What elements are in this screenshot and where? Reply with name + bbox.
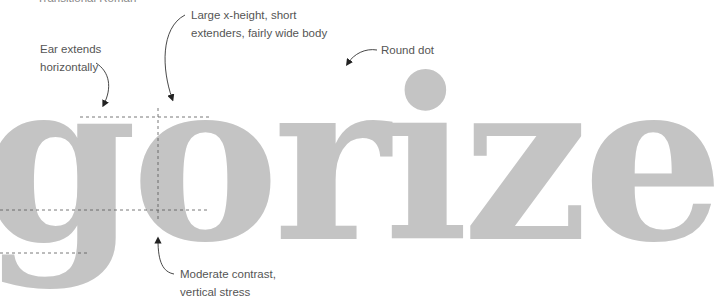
xheight-annotation: Large x-height, short extenders, fairly … — [191, 6, 327, 42]
ear-annotation: Ear extends horizontally — [40, 40, 101, 76]
xheight-arrow — [165, 15, 185, 98]
dot-annotation: Round dot — [381, 41, 434, 59]
contrast-arrow — [158, 240, 174, 274]
dot-arrow — [348, 50, 377, 63]
contrast-annotation: Moderate contrast, vertical stress — [180, 265, 276, 300]
